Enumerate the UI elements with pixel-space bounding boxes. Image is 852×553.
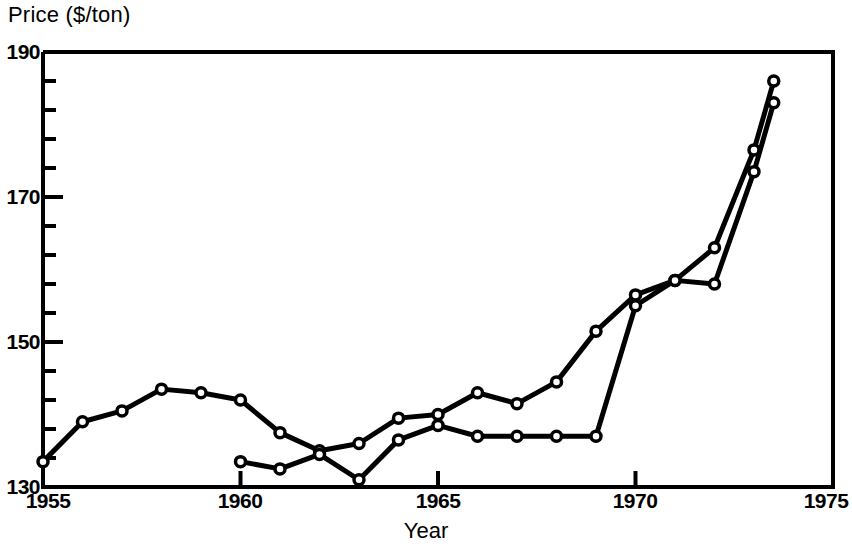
data-point-marker bbox=[354, 475, 364, 485]
x-tick-label: 1975 bbox=[804, 489, 849, 513]
data-series bbox=[236, 98, 779, 485]
data-point-marker bbox=[275, 428, 285, 438]
x-axis-ticks bbox=[241, 471, 636, 487]
series-line bbox=[43, 81, 774, 462]
y-axis-tick-labels: 190 170 150 130 bbox=[0, 0, 40, 553]
data-point-marker bbox=[78, 417, 88, 427]
data-point-marker bbox=[631, 290, 641, 300]
x-tick-label: 1955 bbox=[26, 489, 71, 513]
x-tick-label: 1965 bbox=[416, 489, 461, 513]
data-point-marker bbox=[236, 395, 246, 405]
data-point-marker bbox=[591, 326, 601, 336]
y-tick-label: 150 bbox=[0, 330, 40, 354]
x-tick-label: 1960 bbox=[218, 489, 263, 513]
data-point-marker bbox=[769, 98, 779, 108]
data-point-marker bbox=[512, 431, 522, 441]
data-point-marker bbox=[275, 464, 285, 474]
data-point-marker bbox=[394, 413, 404, 423]
data-point-marker bbox=[473, 431, 483, 441]
data-point-marker bbox=[670, 275, 680, 285]
data-point-marker bbox=[315, 449, 325, 459]
x-tick-label: 1970 bbox=[613, 489, 658, 513]
data-point-marker bbox=[433, 410, 443, 420]
data-series-layer bbox=[38, 76, 779, 485]
data-point-marker bbox=[769, 76, 779, 86]
data-series bbox=[38, 76, 779, 467]
data-point-marker bbox=[710, 243, 720, 253]
data-point-marker bbox=[631, 301, 641, 311]
data-point-marker bbox=[749, 167, 759, 177]
data-point-marker bbox=[710, 279, 720, 289]
x-axis-label: Year bbox=[0, 518, 852, 544]
series-line bbox=[241, 103, 774, 480]
data-point-marker bbox=[157, 384, 167, 394]
data-point-marker bbox=[552, 377, 562, 387]
plot-area bbox=[0, 0, 852, 553]
data-point-marker bbox=[196, 388, 206, 398]
data-point-marker bbox=[433, 420, 443, 430]
price-per-ton-line-chart: Price ($/ton) 190 170 150 130 1955 1960 … bbox=[0, 0, 852, 553]
y-tick-label: 170 bbox=[0, 185, 40, 209]
data-point-marker bbox=[512, 399, 522, 409]
data-point-marker bbox=[236, 457, 246, 467]
data-point-marker bbox=[394, 435, 404, 445]
data-point-marker bbox=[591, 431, 601, 441]
y-tick-label: 190 bbox=[0, 40, 40, 64]
data-point-marker bbox=[117, 406, 127, 416]
data-point-marker bbox=[473, 388, 483, 398]
data-point-marker bbox=[354, 439, 364, 449]
data-point-marker bbox=[552, 431, 562, 441]
y-axis-ticks bbox=[43, 52, 63, 487]
